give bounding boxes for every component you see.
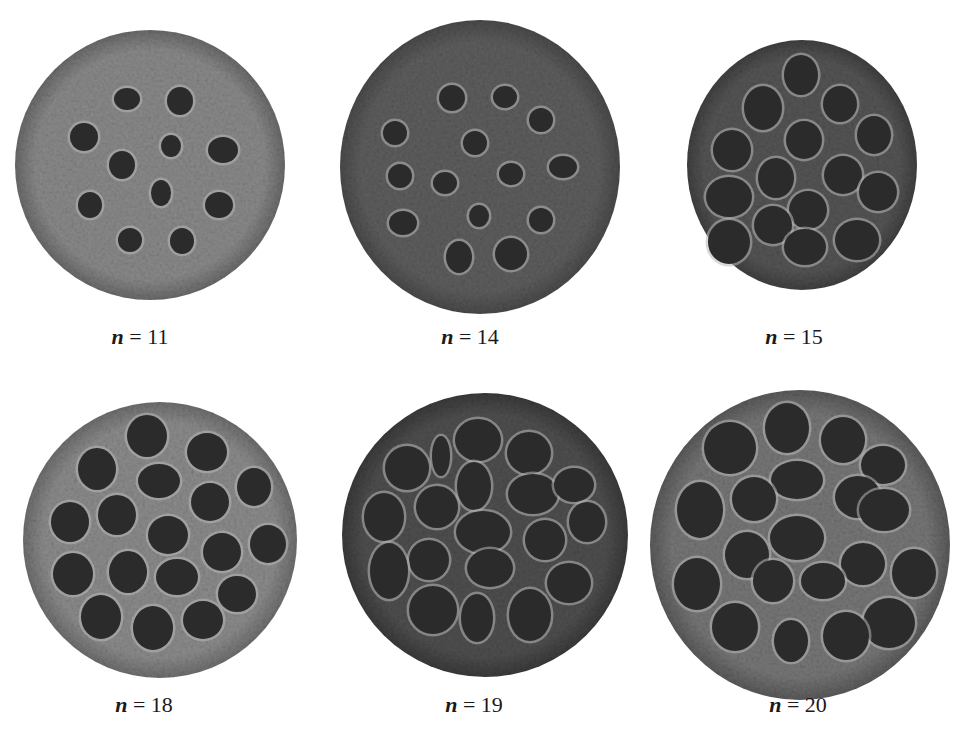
seed-hole [732, 477, 776, 521]
seed-hole [770, 516, 824, 560]
seed-hole [771, 461, 823, 499]
seed-hole [677, 482, 723, 538]
caption-equals: = [781, 692, 804, 717]
caption-value: 20 [805, 692, 827, 717]
panel-caption-n20: n = 20 [728, 692, 868, 718]
seed-hole [674, 558, 720, 610]
caption-variable: n [769, 692, 781, 717]
seed-hole [753, 560, 793, 602]
seed-hole [892, 549, 936, 597]
seed-hole [821, 417, 865, 463]
seed-hole [774, 620, 808, 662]
seed-hole [841, 543, 885, 585]
seed-hole [712, 603, 758, 651]
seed-hole [765, 403, 809, 453]
seedpod-photo-n20 [0, 0, 967, 749]
seed-hole [801, 563, 845, 599]
seed-hole [859, 489, 909, 531]
seed-hole [704, 422, 756, 474]
seed-hole [823, 612, 869, 660]
